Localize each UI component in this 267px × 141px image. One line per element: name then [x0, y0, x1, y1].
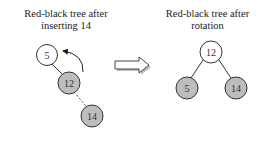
right-node-12: 12	[200, 41, 222, 63]
svg-text:12: 12	[206, 47, 216, 58]
edge-5-12	[52, 64, 62, 74]
left-node-5: 5	[37, 45, 58, 66]
right-node-5: 5	[176, 77, 198, 99]
left-node-14: 14	[81, 105, 103, 127]
edge-12-14-right	[219, 60, 231, 78]
svg-text:5: 5	[185, 83, 190, 94]
edge-12-14	[74, 92, 86, 106]
right-node-14: 14	[225, 77, 247, 99]
svg-text:14: 14	[231, 83, 241, 94]
left-node-12: 12	[58, 72, 80, 94]
svg-text:14: 14	[87, 111, 97, 122]
svg-text:5: 5	[45, 50, 50, 61]
edge-12-5	[191, 60, 203, 78]
tree-diagram: 5 12 14 12 5 14	[0, 0, 267, 141]
svg-text:12: 12	[64, 78, 74, 89]
rotation-arrow-icon	[63, 51, 83, 72]
